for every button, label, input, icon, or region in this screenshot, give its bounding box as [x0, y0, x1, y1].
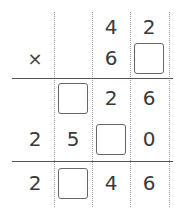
product-hundreds-blank-box[interactable] — [58, 168, 88, 199]
multiplier-tens-digit: 6 — [92, 38, 130, 78]
partial1-hundreds-blank-box[interactable] — [58, 83, 88, 114]
product-hundreds-cell — [54, 163, 92, 203]
multiplier-ones-cell — [130, 38, 168, 78]
partial1-ones-digit: 6 — [130, 78, 168, 118]
partial2-thousands-digit: 2 — [16, 119, 54, 159]
multiply-sign: × — [16, 38, 54, 78]
partial2-tens-blank-box[interactable] — [96, 124, 126, 155]
multiplier-ones-blank-box[interactable] — [134, 43, 164, 74]
column-divider-4 — [169, 12, 170, 207]
partial1-tens-digit: 2 — [92, 78, 130, 118]
partial2-hundreds-digit: 5 — [54, 119, 92, 159]
partial2-ones-digit: 0 — [130, 119, 168, 159]
addition-rule-line — [12, 161, 173, 162]
product-ones-digit: 6 — [130, 163, 168, 203]
partial1-hundreds-cell — [54, 78, 92, 118]
product-tens-digit: 4 — [92, 163, 130, 203]
partial2-tens-cell — [92, 119, 130, 159]
product-thousands-digit: 2 — [16, 163, 54, 203]
